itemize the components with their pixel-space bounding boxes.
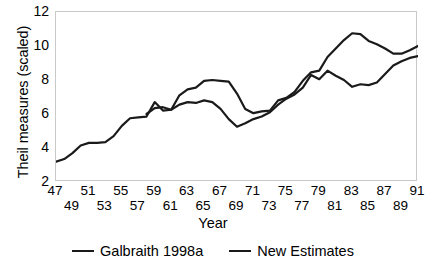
x-axis-title: Year: [0, 215, 426, 231]
x-tick-label: 73: [261, 199, 276, 213]
x-axis-tick-labels: 4751555963677175798387914953576165697377…: [55, 183, 417, 217]
x-tick-label: 59: [146, 184, 161, 198]
x-tick-label: 57: [130, 199, 145, 213]
x-tick-label: 47: [47, 184, 62, 198]
y-tick-label: 2: [22, 174, 49, 188]
line-new-estimates: [147, 56, 419, 127]
legend-line-icon: [72, 250, 94, 252]
legend-item-galbraith-1998a: Galbraith 1998a: [72, 244, 203, 259]
x-tick-label: 89: [393, 199, 408, 213]
x-tick-label: 91: [409, 184, 424, 198]
y-tick-label: 4: [22, 140, 49, 154]
x-tick-label: 83: [344, 184, 359, 198]
x-tick-label: 61: [163, 199, 178, 213]
legend-label: New Estimates: [257, 244, 354, 259]
x-tick-label: 85: [360, 199, 375, 213]
plot-lines: [56, 12, 418, 182]
x-tick-label: 55: [113, 184, 128, 198]
legend-line-icon: [229, 250, 251, 252]
x-tick-label: 77: [294, 199, 309, 213]
legend-item-new-estimates: New Estimates: [229, 244, 354, 259]
x-tick-label: 63: [179, 184, 194, 198]
x-tick-label: 71: [245, 184, 260, 198]
x-tick-label: 51: [80, 184, 95, 198]
plot-area: [55, 11, 417, 181]
x-tick-label: 65: [196, 199, 211, 213]
x-tick-label: 67: [212, 184, 227, 198]
x-tick-label: 49: [64, 199, 79, 213]
x-tick-label: 87: [377, 184, 392, 198]
y-axis-tick-labels: 24681012: [22, 0, 49, 200]
x-tick-label: 79: [311, 184, 326, 198]
x-tick-label: 69: [228, 199, 243, 213]
y-tick-label: 12: [22, 4, 49, 18]
legend-label: Galbraith 1998a: [100, 244, 203, 259]
y-tick-label: 8: [22, 72, 49, 86]
theil-measures-line-chart: Theil measures (scaled) 24681012 4751555…: [0, 0, 426, 277]
y-tick-label: 6: [22, 106, 49, 120]
line-galbraith-1998a: [56, 33, 418, 161]
y-tick-label: 10: [22, 38, 49, 52]
x-tick-label: 53: [97, 199, 112, 213]
x-tick-label: 75: [278, 184, 293, 198]
x-tick-label: 81: [327, 199, 342, 213]
chart-legend: Galbraith 1998a New Estimates: [0, 244, 426, 259]
